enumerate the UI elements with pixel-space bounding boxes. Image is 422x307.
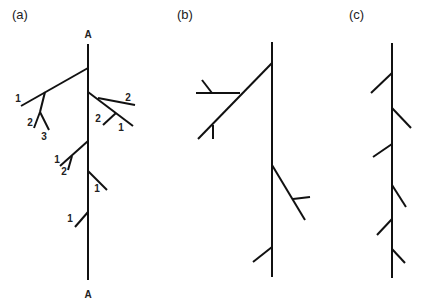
branch-order-label: 1 — [54, 154, 60, 165]
panel-b-label: (b) — [177, 7, 193, 22]
branch-order-label: 2 — [125, 92, 131, 103]
branch-order-label: 1 — [94, 183, 100, 194]
branch-order-label: 2 — [27, 117, 33, 128]
branch-order-label: 1 — [118, 122, 124, 133]
branch-order-label: 3 — [41, 131, 47, 142]
axis-apex-label: A — [84, 29, 91, 40]
branch-order-label: 1 — [67, 213, 73, 224]
axis-base-label: A — [84, 289, 91, 300]
branch-order-label: 1 — [15, 93, 21, 104]
panel-c-label: (c) — [349, 7, 364, 22]
branch-order-label: 2 — [95, 113, 101, 124]
panel-a-label: (a) — [12, 7, 28, 22]
branch-order-label: 2 — [61, 166, 67, 177]
background — [0, 0, 422, 307]
branching-diagram: (a) AA 1232211211 (b) (c) — [0, 0, 422, 307]
